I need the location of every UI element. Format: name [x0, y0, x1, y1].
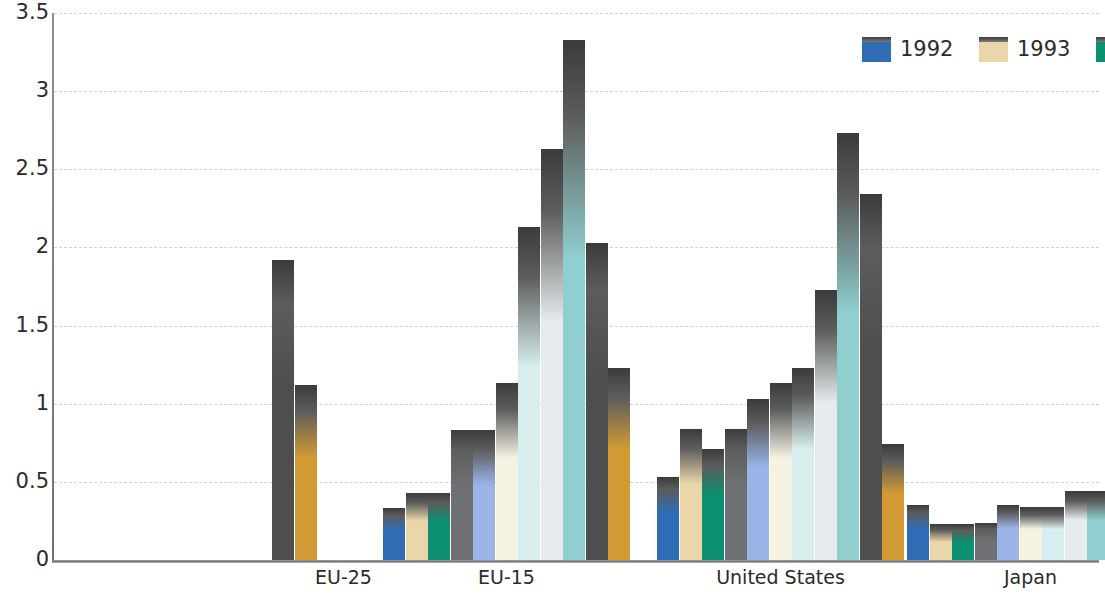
bar[interactable]	[1065, 491, 1087, 560]
bar[interactable]	[725, 429, 747, 560]
bar[interactable]	[563, 40, 585, 560]
bar-fill	[272, 260, 294, 560]
legend-item[interactable]: 1994	[1096, 37, 1105, 62]
bar[interactable]	[518, 227, 540, 560]
y-axis-tick-label: 2	[3, 236, 49, 257]
legend-item[interactable]: 1992	[862, 37, 979, 62]
legend-item[interactable]: 1993	[979, 37, 1096, 62]
bar-fill	[608, 368, 630, 560]
legend-swatch-shading	[979, 37, 1008, 42]
bar-fill	[541, 149, 563, 560]
legend-swatch	[862, 37, 891, 62]
y-axis-tick-label: 3	[3, 80, 49, 101]
bar-fill	[428, 493, 450, 560]
bar[interactable]	[815, 290, 837, 560]
y-axis-tick-label: 1	[3, 393, 49, 414]
bar[interactable]	[1042, 507, 1064, 560]
bar-fill	[1042, 507, 1064, 560]
bar[interactable]	[473, 430, 495, 560]
legend: 1992199319941995199619971998199920002001…	[862, 30, 1097, 69]
bar[interactable]	[1020, 507, 1042, 560]
bar-fill	[882, 444, 904, 560]
bar[interactable]	[770, 383, 792, 560]
bar[interactable]	[952, 524, 974, 560]
bar-fill	[770, 383, 792, 560]
bar[interactable]	[860, 194, 882, 560]
bar-fill	[747, 399, 769, 560]
y-axis-tick-label: 1.5	[3, 315, 49, 336]
bar-fill	[563, 40, 585, 560]
bar[interactable]	[608, 368, 630, 560]
bar[interactable]	[406, 493, 428, 560]
bar-fill	[586, 243, 608, 560]
legend-swatch	[1096, 37, 1105, 62]
bar-fill	[860, 194, 882, 560]
y-axis-tick-label: 3.5	[3, 2, 49, 23]
x-axis-category-label: Japan	[921, 566, 1105, 588]
bar-chart: 00.511.522.533.5 EU-25EU-15United States…	[0, 0, 1105, 598]
bar-fill	[451, 430, 473, 560]
bar[interactable]	[496, 383, 518, 560]
bar[interactable]	[451, 430, 473, 560]
bar-fill	[657, 477, 679, 560]
bar[interactable]	[272, 260, 294, 560]
bar-fill	[1087, 491, 1105, 560]
bar[interactable]	[383, 508, 405, 560]
bar-fill	[975, 523, 997, 561]
legend-swatch-shading	[1096, 37, 1105, 42]
plot-area	[52, 13, 1099, 562]
bar-fill	[997, 505, 1019, 560]
bar[interactable]	[792, 368, 814, 560]
x-axis-category-label: EU-15	[397, 566, 617, 588]
bar[interactable]	[975, 523, 997, 561]
x-axis-category-label: United States	[671, 566, 891, 588]
bar[interactable]	[541, 149, 563, 560]
bar[interactable]	[837, 133, 859, 560]
bar-fill	[837, 133, 859, 560]
gridline	[54, 13, 1099, 15]
bar-fill	[702, 449, 724, 560]
bar[interactable]	[428, 493, 450, 560]
x-axis-line	[52, 560, 1099, 563]
legend-label: 1992	[900, 39, 953, 60]
legend-swatch	[979, 37, 1008, 62]
bar-fill	[792, 368, 814, 560]
bar-fill	[815, 290, 837, 560]
y-axis-tick-label: 0.5	[3, 471, 49, 492]
bar-fill	[680, 429, 702, 560]
bar-fill	[406, 493, 428, 560]
bar[interactable]	[907, 505, 929, 560]
y-axis-line	[52, 13, 54, 562]
bar-fill	[518, 227, 540, 560]
bar-fill	[952, 524, 974, 560]
legend-swatch-shading	[862, 37, 891, 42]
bar-fill	[1020, 507, 1042, 560]
bar-fill	[907, 505, 929, 560]
y-axis-tick-label: 0	[3, 549, 49, 570]
bar[interactable]	[997, 505, 1019, 560]
bar[interactable]	[747, 399, 769, 560]
y-axis-tick-label: 2.5	[3, 158, 49, 179]
bar-fill	[1065, 491, 1087, 560]
bar[interactable]	[930, 524, 952, 560]
bar[interactable]	[680, 429, 702, 560]
bar[interactable]	[702, 449, 724, 560]
bar-fill	[496, 383, 518, 560]
bar-fill	[930, 524, 952, 560]
bar-fill	[725, 429, 747, 560]
bar[interactable]	[586, 243, 608, 560]
bar[interactable]	[295, 385, 317, 560]
bar[interactable]	[1087, 491, 1105, 560]
bar-fill	[383, 508, 405, 560]
bar[interactable]	[882, 444, 904, 560]
bar-fill	[473, 430, 495, 560]
legend-label: 1993	[1017, 39, 1070, 60]
bar[interactable]	[657, 477, 679, 560]
bar-fill	[295, 385, 317, 560]
